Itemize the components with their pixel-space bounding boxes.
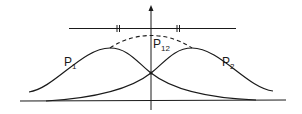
label-p1: P1 (64, 56, 76, 71)
axis-arrow-icon (149, 5, 154, 11)
label-p12: P12 (153, 38, 170, 53)
label-p12-sub: 12 (161, 44, 170, 53)
curve-p2 (46, 48, 273, 101)
crossing-point (150, 72, 153, 75)
label-p1-base: P (64, 55, 72, 69)
label-p2-base: P (222, 55, 230, 69)
diagram-canvas (0, 0, 302, 114)
double-slit-diagram: P1 P2 P12 (0, 0, 302, 114)
label-p1-sub: 1 (72, 62, 76, 71)
label-p2: P2 (222, 56, 234, 71)
label-p12-base: P (153, 37, 161, 51)
label-p2-sub: 2 (230, 62, 234, 71)
